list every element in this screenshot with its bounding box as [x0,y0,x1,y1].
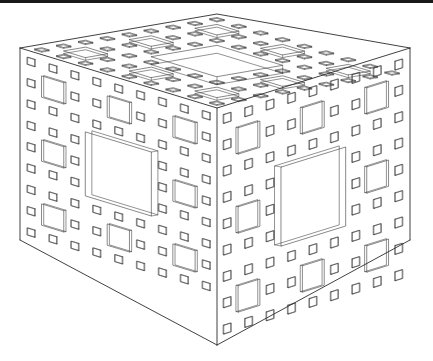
sponge-top-face [35,17,400,105]
sponge-left-face [27,57,210,290]
figure-canvas: Menger Sponge Level-3 Menger sponge frac… [0,0,433,361]
menger-sponge-drawing [0,0,433,361]
